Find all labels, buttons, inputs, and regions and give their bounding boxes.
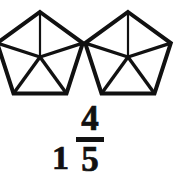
- fraction-model-figure: 1 4 5: [0, 0, 174, 176]
- mixed-number-area: 1 4 5: [0, 100, 174, 176]
- whole-number: 1: [52, 141, 69, 175]
- fraction: 4 5: [76, 102, 104, 176]
- mixed-number: 1 4 5: [52, 102, 104, 176]
- fraction-denominator: 5: [81, 143, 99, 176]
- pentagon-1-outline: [0, 12, 83, 93]
- pentagon-2: [85, 12, 171, 93]
- pentagon-1: [0, 12, 83, 93]
- fraction-numerator: 4: [81, 102, 99, 135]
